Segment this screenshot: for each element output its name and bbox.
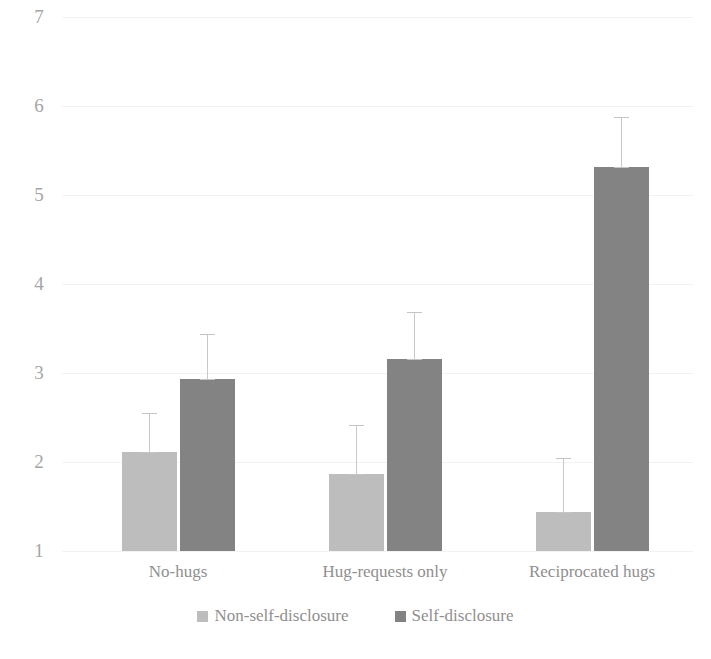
y-tick-label-7: 7	[34, 6, 44, 28]
y-tick-label-2: 2	[34, 451, 44, 473]
error-bar	[563, 458, 564, 511]
x-category-label-reciprocated-hugs: Reciprocated hugs	[529, 562, 655, 582]
y-tick-label-1: 1	[34, 540, 44, 562]
error-bar-cap-upper	[407, 312, 422, 313]
error-bar-cap-lower	[200, 379, 215, 380]
plot-area	[62, 10, 692, 555]
error-bar-cap-lower	[614, 167, 629, 168]
error-bar-cap-lower	[349, 474, 364, 475]
x-category-label-hug-requests-only: Hug-requests only	[322, 562, 447, 582]
bar-hug-requests-only-self-disclosure	[387, 359, 442, 551]
bar-chart: 7 6 5 4 3 2 1 No-hugs Hug-requests only …	[0, 0, 711, 659]
chart-legend: Non-self-disclosure Self-disclosure	[0, 606, 711, 626]
error-bar-cap-upper	[556, 458, 571, 459]
x-category-label-no-hugs: No-hugs	[149, 562, 208, 582]
bar-reciprocated-hugs-self-disclosure	[594, 167, 649, 551]
legend-label: Self-disclosure	[412, 606, 514, 626]
legend-swatch-icon	[197, 611, 208, 622]
error-bar	[621, 117, 622, 168]
y-tick-label-4: 4	[34, 273, 44, 295]
y-tick-label-5: 5	[34, 184, 44, 206]
error-bar	[149, 413, 150, 452]
error-bar-cap-upper	[142, 413, 157, 414]
error-bar-cap-lower	[142, 452, 157, 453]
legend-swatch-icon	[395, 611, 406, 622]
error-bar	[356, 425, 357, 474]
legend-label: Non-self-disclosure	[214, 606, 348, 626]
error-bar-cap-lower	[407, 359, 422, 360]
bar-hug-requests-only-non-self-disclosure	[329, 474, 384, 551]
legend-item-self-disclosure: Self-disclosure	[395, 606, 514, 626]
legend-item-non-self-disclosure: Non-self-disclosure	[197, 606, 348, 626]
error-bar-cap-upper	[349, 425, 364, 426]
error-bar	[207, 334, 208, 379]
error-bar-cap-lower	[556, 512, 571, 513]
y-tick-label-3: 3	[34, 362, 44, 384]
error-bar	[414, 312, 415, 358]
bar-reciprocated-hugs-non-self-disclosure	[536, 512, 591, 551]
y-axis: 7 6 5 4 3 2 1	[0, 0, 62, 565]
bar-no-hugs-non-self-disclosure	[122, 452, 177, 551]
error-bar-cap-upper	[200, 334, 215, 335]
bar-no-hugs-self-disclosure	[180, 379, 235, 551]
y-tick-label-6: 6	[34, 95, 44, 117]
error-bar-cap-upper	[614, 117, 629, 118]
